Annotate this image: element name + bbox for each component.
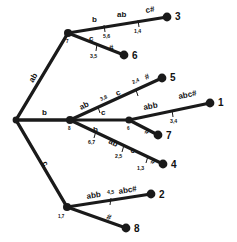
node-leaf-3[interactable] bbox=[163, 13, 172, 22]
edge-label-a-ab: ab bbox=[117, 10, 126, 19]
node-sublabel-6: 6 bbox=[127, 126, 130, 131]
edge-number-a-56: 5,6 bbox=[103, 33, 110, 39]
node-leaf-7[interactable] bbox=[154, 131, 163, 140]
edge-nB-leaf5 bbox=[70, 78, 162, 120]
edge-label-b-b-lower: b bbox=[93, 125, 98, 134]
edge-label-a-b: b bbox=[92, 15, 97, 24]
edge-nD-leaf2 bbox=[67, 194, 151, 207]
leaf-label-6: 6 bbox=[132, 50, 138, 61]
edge-number-c-34: 3,4 bbox=[170, 118, 177, 124]
edge-number-b-25: 2,5 bbox=[115, 153, 122, 159]
node-internal-8[interactable] bbox=[66, 116, 74, 124]
leaf-label-7: 7 bbox=[166, 130, 172, 141]
node-internal-17[interactable] bbox=[63, 203, 71, 211]
edge-number-b-67: 6,7 bbox=[88, 139, 95, 145]
edge-number-a-35: 3,5 bbox=[90, 53, 97, 59]
node-leaf-5[interactable] bbox=[158, 74, 167, 83]
node-root[interactable] bbox=[13, 117, 20, 124]
node-internal-6[interactable] bbox=[125, 116, 132, 123]
leaf-label-5: 5 bbox=[170, 72, 176, 83]
leaf-label-1: 1 bbox=[218, 97, 224, 108]
edge-label-a-c: c bbox=[89, 34, 94, 43]
edge-number-b-24: 2,4 bbox=[131, 76, 140, 84]
node-sublabel-8: 8 bbox=[68, 126, 71, 131]
leaf-label-8: 8 bbox=[134, 223, 140, 234]
edge-nD-leaf8 bbox=[67, 207, 126, 228]
edge-label-c-abcsharp: abc# bbox=[178, 89, 198, 101]
edge-label-b-c-upper: c bbox=[114, 88, 122, 98]
branch-a-label-group: b ab c# 5,6 1,4 c # 3,5 bbox=[89, 4, 156, 59]
edge-label-d-abcsharp: abc# bbox=[118, 184, 138, 196]
edge-label-b-c-middle: c bbox=[101, 108, 106, 117]
diagram-canvas: 3 6 5 1 7 4 2 8 7 8 6 1,7 ab b c b ab c#… bbox=[0, 0, 237, 242]
edge-label-a-csharp: c# bbox=[145, 4, 156, 15]
node-internal-7[interactable] bbox=[64, 29, 72, 37]
node-sublabel-7: 7 bbox=[66, 39, 69, 44]
edge-label-a-hash: # bbox=[108, 43, 115, 53]
edge-nA-leaf3 bbox=[68, 17, 167, 33]
node-leaf-1[interactable] bbox=[206, 99, 215, 108]
node-sublabel-17: 1,7 bbox=[58, 214, 65, 219]
leaf-label-2: 2 bbox=[159, 189, 165, 200]
node-leaf-2[interactable] bbox=[147, 190, 156, 199]
edge-label-d-abb: abb bbox=[86, 190, 102, 201]
node-leaf-4[interactable] bbox=[159, 160, 168, 169]
edge-label-root-b: b bbox=[42, 108, 47, 117]
leaf-label-group: 3 6 5 1 7 4 2 8 bbox=[132, 11, 224, 234]
edge-number-a-14: 1,4 bbox=[134, 28, 141, 34]
node-leaf-8[interactable] bbox=[122, 224, 131, 233]
edge-root-nA bbox=[16, 33, 68, 120]
tree-diagram: 3 6 5 1 7 4 2 8 7 8 6 1,7 ab b c b ab c#… bbox=[0, 0, 237, 242]
edge-nA-leaf6 bbox=[68, 33, 124, 55]
edge-label-d-hash: # bbox=[105, 212, 113, 222]
edge-number-b-13: 1,3 bbox=[137, 165, 144, 171]
node-leaf-6[interactable] bbox=[120, 51, 129, 60]
leaf-label-3: 3 bbox=[175, 11, 181, 22]
edge-number-b-38: 3,8 bbox=[99, 93, 108, 101]
edge-label-b-hash-upper: # bbox=[143, 72, 151, 82]
leaf-label-4: 4 bbox=[171, 159, 177, 170]
edge-label-c-abb: abb bbox=[143, 100, 159, 112]
edge-number-d-45: 4,5 bbox=[107, 189, 114, 195]
